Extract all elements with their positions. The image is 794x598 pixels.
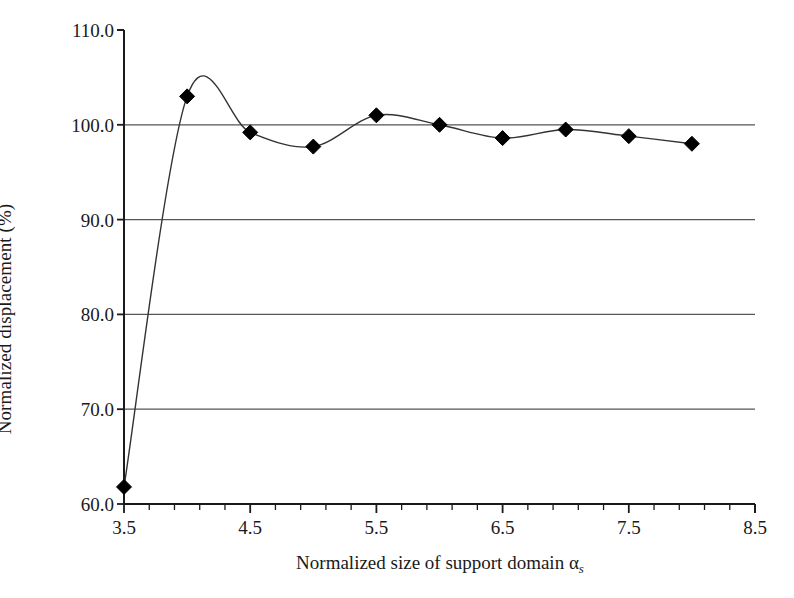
data-marker (117, 479, 132, 494)
data-marker (306, 139, 321, 154)
tick-group (117, 30, 755, 513)
data-line (124, 76, 692, 487)
data-marker (369, 108, 384, 123)
gridline-group (124, 125, 755, 409)
data-marker (243, 125, 258, 140)
data-marker (180, 89, 195, 104)
data-marker-group (117, 89, 700, 495)
data-line-group (124, 76, 692, 487)
chart-figure: Normalized displacement (%) Normalized s… (0, 0, 794, 598)
data-marker (684, 136, 699, 151)
axis-group (124, 30, 755, 504)
data-marker (621, 129, 636, 144)
plot-area (0, 0, 794, 598)
data-marker (495, 131, 510, 146)
data-marker (432, 117, 447, 132)
